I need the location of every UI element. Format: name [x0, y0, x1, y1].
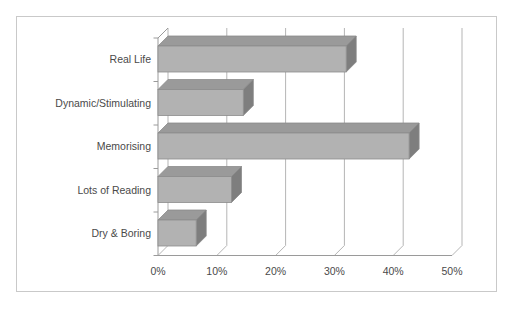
- x-tick-label-20: 20%: [265, 266, 286, 277]
- x-tick-label-40: 40%: [383, 266, 404, 277]
- x-tick-label-10: 10%: [206, 266, 227, 277]
- x-tick-label-50: 50%: [441, 266, 462, 277]
- x-tick-label-30: 30%: [324, 266, 345, 277]
- value-axis: 0% 10% 20% 30% 40% 50%: [0, 0, 516, 317]
- x-tick-label-0: 0%: [150, 266, 165, 277]
- chart-root: Real Life Dynamic/Stimulating Memorising…: [0, 0, 516, 317]
